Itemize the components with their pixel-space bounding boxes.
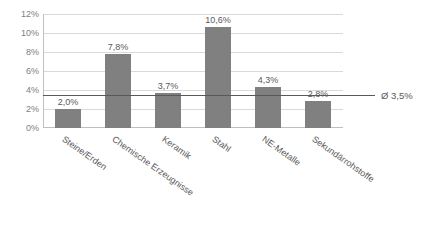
bar-group: 4,3% bbox=[243, 14, 293, 128]
y-axis-tick: 4% bbox=[5, 86, 39, 95]
x-axis-tick: Steine/Erden bbox=[43, 130, 93, 226]
y-axis-tick: 8% bbox=[5, 48, 39, 57]
average-line bbox=[43, 95, 375, 96]
x-axis-tick: Keramik bbox=[143, 130, 193, 226]
bar[interactable] bbox=[105, 54, 131, 128]
x-axis: Steine/Erden Chemische Erzeugnisse Keram… bbox=[43, 130, 343, 226]
bar-group: 3,7% bbox=[143, 14, 193, 128]
bar-group: 2,0% bbox=[43, 14, 93, 128]
y-axis-tick: 12% bbox=[5, 10, 39, 19]
x-axis-tick: Sekundärrohstoffe bbox=[293, 130, 343, 226]
bar-value-label: 3,7% bbox=[158, 81, 179, 91]
bar[interactable] bbox=[55, 109, 81, 128]
bar-value-label: 2,0% bbox=[58, 97, 79, 107]
bar-value-label: 10,6% bbox=[205, 15, 231, 25]
bars-layer: 2,0% 7,8% 3,7% 10,6% 4,3% 2,8% bbox=[43, 14, 343, 128]
bar-value-label: 2,8% bbox=[308, 89, 329, 99]
y-axis-tick: 0% bbox=[5, 124, 39, 133]
y-axis: 12% 10% 8% 6% 4% 2% 0% bbox=[0, 14, 39, 128]
bar-chart: 12% 10% 8% 6% 4% 2% 0% 2,0% 7,8% 3,7% 10… bbox=[0, 0, 427, 226]
x-axis-tick: Chemische Erzeugnisse bbox=[93, 130, 143, 226]
x-axis-tick: NE-Metalle bbox=[243, 130, 293, 226]
bar-group: 10,6% bbox=[193, 14, 243, 128]
bar[interactable] bbox=[305, 101, 331, 128]
x-axis-tick-label: Stahl bbox=[210, 134, 233, 154]
average-line-label: Ø 3,5% bbox=[381, 91, 413, 101]
x-axis-tick-label: Keramik bbox=[160, 134, 193, 161]
x-axis-tick-label: Sekundärrohstoffe bbox=[310, 134, 376, 184]
y-axis-tick: 2% bbox=[5, 105, 39, 114]
x-axis-tick: Stahl bbox=[193, 130, 243, 226]
bar[interactable] bbox=[155, 93, 181, 128]
bar[interactable] bbox=[255, 87, 281, 128]
bar[interactable] bbox=[205, 27, 231, 128]
y-axis-tick: 6% bbox=[5, 67, 39, 76]
y-axis-tick: 10% bbox=[5, 29, 39, 38]
bar-value-label: 4,3% bbox=[258, 75, 279, 85]
bar-group: 7,8% bbox=[93, 14, 143, 128]
bar-value-label: 7,8% bbox=[108, 42, 129, 52]
bar-group: 2,8% bbox=[293, 14, 343, 128]
